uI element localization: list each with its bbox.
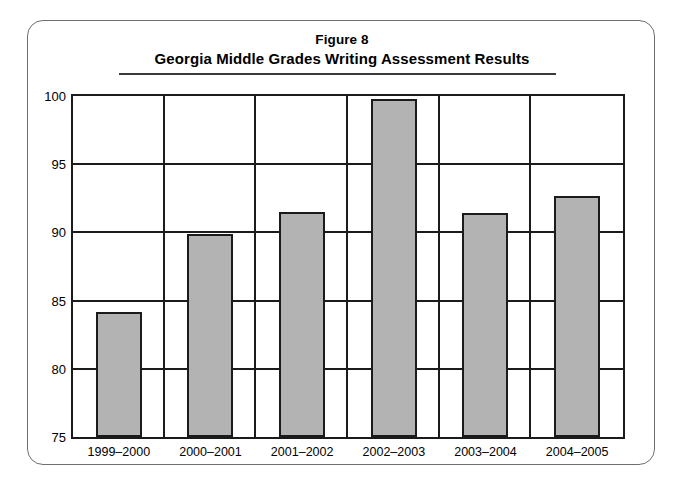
bar-slot: 2000–2001 — [165, 96, 257, 437]
bar[interactable] — [371, 99, 417, 437]
y-axis-tick-label: 80 — [52, 361, 66, 376]
bar[interactable] — [96, 312, 142, 437]
title-underline-rule — [119, 73, 556, 75]
x-axis-tick-label: 1999–2000 — [88, 445, 151, 459]
x-axis-tick-label: 2004–2005 — [546, 445, 609, 459]
bar-slot: 2003–2004 — [440, 96, 532, 437]
bar-slot: 2001–2002 — [256, 96, 348, 437]
x-axis-tick-label: 2001–2002 — [271, 445, 334, 459]
bar-slot: 2004–2005 — [531, 96, 623, 437]
bar[interactable] — [462, 213, 508, 437]
figure-title-block: Figure 8 Georgia Middle Grades Writing A… — [28, 30, 656, 68]
figure-number-title: Figure 8 — [28, 30, 656, 49]
figure-root: Figure 8 Georgia Middle Grades Writing A… — [0, 0, 681, 488]
chart-plot-area: 1009590858075 1999–20002000–20012001–200… — [71, 94, 625, 439]
bar-slot: 2002–2003 — [348, 96, 440, 437]
y-axis-tick-label: 75 — [52, 430, 66, 445]
x-axis-tick-label: 2000–2001 — [179, 445, 242, 459]
figure-title: Georgia Middle Grades Writing Assessment… — [28, 49, 656, 68]
bar[interactable] — [279, 212, 325, 437]
bar[interactable] — [554, 196, 600, 437]
bar-slot: 1999–2000 — [73, 96, 165, 437]
x-axis-tick-label: 2002–2003 — [363, 445, 426, 459]
x-axis-tick-label: 2003–2004 — [454, 445, 517, 459]
y-axis-tick-label: 85 — [52, 293, 66, 308]
y-axis-tick-label: 100 — [44, 89, 66, 104]
y-axis-tick-label: 90 — [52, 225, 66, 240]
y-axis-tick-label: 95 — [52, 157, 66, 172]
bar[interactable] — [187, 234, 233, 437]
figure-border-frame: Figure 8 Georgia Middle Grades Writing A… — [27, 20, 655, 465]
